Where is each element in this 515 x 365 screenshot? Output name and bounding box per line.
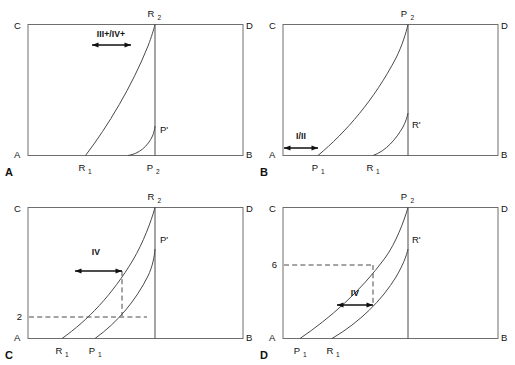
svg-text:2: 2: [158, 197, 162, 204]
panel-b-label-r1: R 1: [367, 162, 380, 175]
svg-text:1: 1: [376, 168, 380, 175]
svg-text:R: R: [367, 162, 374, 173]
svg-text:P: P: [401, 191, 407, 202]
svg-text:2: 2: [411, 197, 415, 204]
panel-d-corner-bottom-left: A: [269, 332, 276, 343]
panel-d-label-p1: P 1: [294, 345, 307, 358]
panel-b-corner-bottom-left: A: [269, 149, 276, 160]
svg-text:1: 1: [303, 351, 307, 358]
panel-d-label-p2: P 2: [401, 191, 415, 204]
panel-d-range-arrow: [337, 302, 373, 307]
panel-d-label-r1: R 1: [327, 345, 340, 358]
svg-text:1: 1: [336, 351, 340, 358]
panel-a-label-p2: P 2: [147, 162, 160, 175]
svg-text:P: P: [401, 8, 407, 19]
panel-b-label-r-prime: R': [412, 119, 421, 130]
panel-c-range-label: IV: [92, 247, 100, 257]
panel-c-corner-bottom-left: A: [14, 332, 21, 343]
panel-d-corner-top-left: C: [269, 203, 276, 214]
svg-text:2: 2: [411, 14, 415, 21]
svg-text:2: 2: [156, 168, 160, 175]
panel-c: C D A B 2 IV R 2 R 1 P 1 P': [5, 191, 253, 361]
panel-c-range-arrow: [75, 268, 122, 273]
panel-c-curve-r: [62, 208, 155, 339]
panel-c-label-r1: R 1: [56, 345, 69, 358]
svg-text:P: P: [312, 162, 318, 173]
panel-b-curve-r: [373, 113, 408, 156]
panel-a-label-p-prime: P': [160, 124, 168, 135]
panel-d-label: D: [260, 349, 268, 361]
panel-c-corner-top-right: D: [246, 203, 253, 214]
panel-a-corner-bottom-left: A: [14, 149, 21, 160]
panel-c-label: C: [5, 349, 13, 361]
panel-d-label-r-prime: R': [412, 234, 421, 245]
svg-text:R: R: [148, 8, 155, 19]
svg-text:P: P: [294, 345, 300, 356]
panel-a-frame: [28, 25, 243, 156]
panel-d-curve-p: [300, 208, 408, 339]
four-panel-figure: C D A B III+/IV+ R 2 R 1 P 2 P' A: [0, 0, 515, 365]
svg-text:1: 1: [65, 351, 69, 358]
panel-d-tick-label: 6: [272, 259, 277, 270]
svg-text:R: R: [79, 162, 86, 173]
svg-text:R: R: [56, 345, 63, 356]
panel-b-corner-bottom-right: B: [501, 149, 507, 160]
panel-c-curve-p: [95, 249, 155, 339]
panel-c-label-r2: R 2: [148, 191, 162, 204]
panel-d-curve-r: [332, 249, 408, 339]
panel-d-range-label: IV: [351, 288, 359, 298]
panel-c-corner-bottom-right: B: [246, 332, 252, 343]
panel-a-label-r2: R 2: [148, 8, 162, 21]
svg-text:P: P: [89, 345, 95, 356]
panel-d-corner-top-right: D: [501, 203, 508, 214]
panel-c-tick-label: 2: [17, 311, 22, 322]
panel-a-label: A: [5, 166, 13, 178]
panel-a-corner-top-left: C: [14, 20, 21, 31]
panel-b-corner-top-left: C: [269, 20, 276, 31]
panel-c-label-p1: P 1: [89, 345, 102, 358]
panel-a-range-label: III+/IV+: [97, 29, 126, 39]
svg-text:R: R: [327, 345, 334, 356]
panel-a-corner-bottom-right: B: [246, 149, 252, 160]
panel-a-range-arrow: [92, 42, 131, 47]
panel-c-frame: [28, 208, 243, 339]
panel-b-label-p1: P 1: [312, 162, 325, 175]
svg-text:P: P: [147, 162, 153, 173]
panel-b-frame: [283, 25, 498, 156]
panel-a-corner-top-right: D: [246, 20, 253, 31]
svg-text:2: 2: [158, 14, 162, 21]
panel-c-label-p-prime: P': [160, 234, 168, 245]
panel-b-label-p2: P 2: [401, 8, 415, 21]
panel-a-curve-p: [128, 126, 155, 156]
svg-text:1: 1: [98, 351, 102, 358]
panel-b-curve-p: [318, 25, 408, 156]
panel-b: C D A B I/II P 2 P 1 R 1 R' B: [260, 8, 508, 178]
panel-c-corner-top-left: C: [14, 203, 21, 214]
panel-d-frame: [283, 208, 498, 339]
panel-a-label-r1: R 1: [79, 162, 92, 175]
panel-b-label: B: [260, 166, 268, 178]
panel-b-corner-top-right: D: [501, 20, 508, 31]
panel-a: C D A B III+/IV+ R 2 R 1 P 2 P' A: [5, 8, 253, 178]
svg-text:1: 1: [88, 168, 92, 175]
panel-b-range-arrow: [284, 145, 318, 150]
panel-d: C D A B 6 IV P 2 P 1 R 1 R': [260, 191, 508, 361]
svg-text:R: R: [148, 191, 155, 202]
svg-text:1: 1: [321, 168, 325, 175]
panel-d-corner-bottom-right: B: [501, 332, 507, 343]
panel-b-range-label: I/II: [296, 131, 306, 141]
